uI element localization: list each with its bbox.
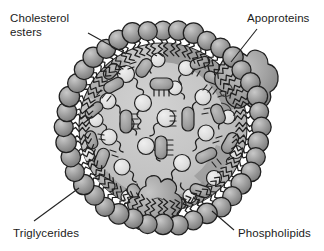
label-triglycerides: Triglycerides xyxy=(13,227,79,241)
leader-line-triglycerides xyxy=(34,188,79,221)
label-apoproteins: Apoproteins xyxy=(247,12,309,26)
label-cholesterol-esters: Cholesterol esters xyxy=(10,12,69,39)
phospholipid-head xyxy=(138,22,157,41)
label-phospholipids: Phospholipids xyxy=(238,227,311,241)
